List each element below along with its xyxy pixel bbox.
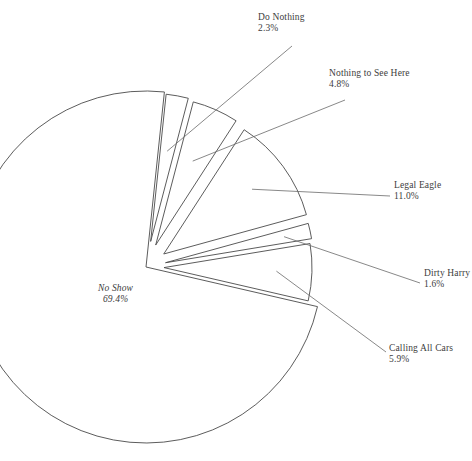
slice-label-calling-all-cars: Calling All Cars 5.9% xyxy=(389,343,453,365)
slice-label-name: Nothing to See Here xyxy=(329,68,410,79)
slice-label-dirty-harry: Dirty Harry 1.6% xyxy=(424,268,470,290)
pie-chart-figure: Do Nothing 2.3% Nothing to See Here 4.8%… xyxy=(0,0,472,461)
slice-label-name: Dirty Harry xyxy=(424,268,470,279)
slice-label-nothing-to-see-here: Nothing to See Here 4.8% xyxy=(329,68,410,90)
slice-label-name: Do Nothing xyxy=(258,12,305,23)
slice-label-percent: 4.8% xyxy=(329,79,410,90)
slice-label-do-nothing: Do Nothing 2.3% xyxy=(258,12,305,34)
slice-label-name: No Show xyxy=(98,283,133,294)
slice-label-percent: 1.6% xyxy=(424,279,470,290)
slice-label-legal-eagle: Legal Eagle 11.0% xyxy=(394,180,441,202)
slice-label-percent: 69.4% xyxy=(98,294,133,305)
slice-label-name: Legal Eagle xyxy=(394,180,441,191)
slice-label-percent: 11.0% xyxy=(394,191,441,202)
slice-label-no-show: No Show 69.4% xyxy=(98,283,133,305)
slice-label-percent: 2.3% xyxy=(258,23,305,34)
slice-label-name: Calling All Cars xyxy=(389,343,453,354)
slice-label-percent: 5.9% xyxy=(389,354,453,365)
